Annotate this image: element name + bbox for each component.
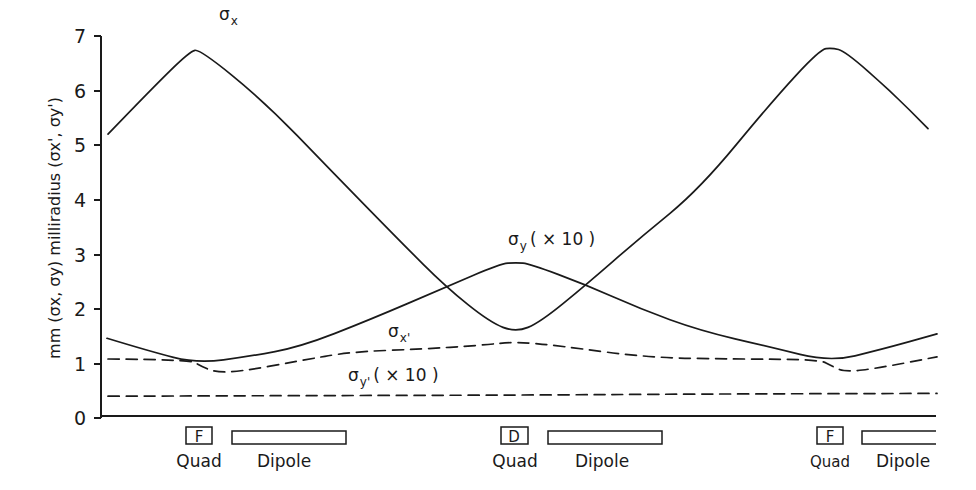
y-tick-0: 0 bbox=[74, 407, 86, 429]
quad-label-1: Quad bbox=[176, 451, 221, 471]
f-letter-2: F bbox=[826, 428, 835, 446]
y-tick-labels: 0 1 2 3 4 5 6 7 bbox=[74, 25, 86, 429]
dipole-box-3 bbox=[862, 431, 936, 444]
y-tick-4: 4 bbox=[74, 189, 86, 211]
lattice bbox=[186, 427, 936, 444]
sigma-y-label: σy( × 10 ) bbox=[508, 229, 595, 253]
sigma-yprime-curve bbox=[108, 393, 937, 396]
dipole-label-3: Dipole bbox=[876, 451, 930, 471]
dipole-box-2 bbox=[548, 431, 662, 444]
beam-envelope-chart: mm (σx, σy) milliradius (σx', σy') 0 1 2… bbox=[0, 0, 976, 490]
sigma-yprime-label: σy'( × 10 ) bbox=[348, 365, 439, 389]
y-tick-2: 2 bbox=[74, 298, 86, 320]
y-tick-6: 6 bbox=[74, 80, 86, 102]
dipole-label-2: Dipole bbox=[575, 451, 629, 471]
y-tick-5: 5 bbox=[74, 134, 86, 156]
quad-label-2: Quad bbox=[492, 451, 537, 471]
d-letter: D bbox=[508, 428, 520, 446]
sigma-x-curve bbox=[108, 48, 928, 330]
sigma-xprime-label: σx' bbox=[388, 321, 410, 345]
dipole-box-1 bbox=[232, 431, 346, 444]
y-tick-3: 3 bbox=[74, 244, 86, 266]
quad-label-3: Quad bbox=[810, 453, 850, 471]
y-axis-label: mm (σx, σy) milliradius (σx', σy') bbox=[45, 97, 64, 359]
f-letter-1: F bbox=[195, 428, 204, 446]
sigma-x-label: σx bbox=[219, 4, 238, 28]
sigma-y-curve bbox=[107, 263, 937, 361]
dipole-label-1: Dipole bbox=[257, 451, 311, 471]
y-tick-7: 7 bbox=[74, 25, 86, 47]
y-tick-1: 1 bbox=[74, 353, 86, 375]
